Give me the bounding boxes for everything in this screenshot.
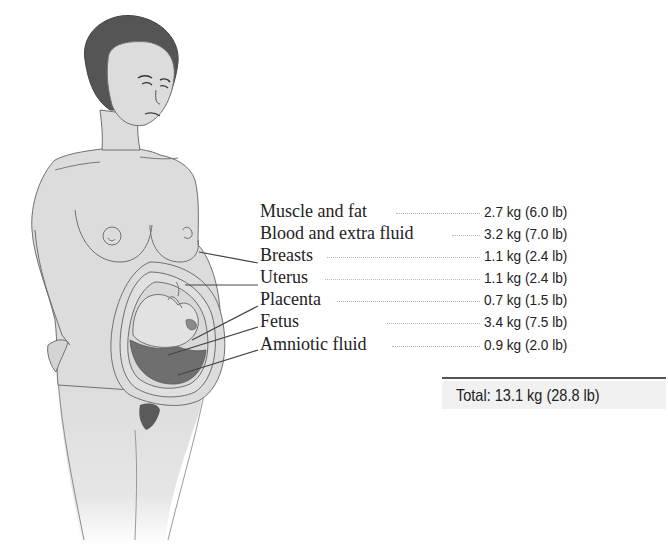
- dotted-leader: [327, 257, 480, 258]
- value-placenta: 0.7 kg (1.5 lb): [484, 289, 567, 311]
- value-muscle-and-fat: 2.7 kg (6.0 lb): [484, 201, 567, 223]
- label-breasts: Breasts: [260, 244, 313, 266]
- dotted-leader: [392, 346, 480, 347]
- total-value: Total: 13.1 kg (28.8 lb): [456, 384, 600, 406]
- label-blood-and-extra-fluid: Blood and extra fluid: [260, 222, 413, 244]
- value-breasts: 1.1 kg (2.4 lb): [484, 245, 567, 267]
- dotted-leader: [325, 279, 480, 280]
- value-blood-and-extra-fluid: 3.2 kg (7.0 lb): [484, 223, 567, 245]
- dotted-leader: [337, 301, 480, 302]
- dotted-leader: [387, 323, 480, 324]
- total-divider: [442, 377, 666, 379]
- label-amniotic-fluid: Amniotic fluid: [260, 333, 367, 355]
- value-fetus: 3.4 kg (7.5 lb): [484, 311, 567, 333]
- dotted-leader: [396, 213, 480, 214]
- pregnant-figure-illustration: [0, 0, 668, 550]
- label-uterus: Uterus: [260, 266, 308, 288]
- label-fetus: Fetus: [260, 310, 299, 332]
- dotted-leader: [452, 235, 480, 236]
- value-amniotic-fluid: 0.9 kg (2.0 lb): [484, 334, 567, 356]
- label-placenta: Placenta: [260, 288, 321, 310]
- label-muscle-and-fat: Muscle and fat: [260, 200, 367, 222]
- head: [84, 15, 178, 125]
- value-uterus: 1.1 kg (2.4 lb): [484, 267, 567, 289]
